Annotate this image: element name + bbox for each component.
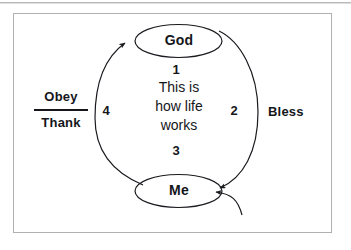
step-number-3: 3 <box>152 143 200 158</box>
bless-label: Bless <box>268 104 304 119</box>
center-caption-line-3: works <box>131 116 227 135</box>
figure-page: God Me 1 2 3 4 This is how life works Ob… <box>0 0 351 250</box>
left-fraction-label: Obey Thank <box>30 88 92 132</box>
god-node-label: God <box>135 32 223 48</box>
center-caption-line-2: how life <box>131 97 227 116</box>
step-number-1: 1 <box>152 62 200 77</box>
step-number-2: 2 <box>224 103 244 118</box>
fraction-divider-line <box>34 109 88 111</box>
thank-label: Thank <box>30 114 92 132</box>
obey-label: Obey <box>30 88 92 106</box>
me-node-label: Me <box>135 182 223 198</box>
center-caption-line-1: This is <box>131 78 227 97</box>
step-number-4: 4 <box>96 103 116 118</box>
center-caption: This is how life works <box>131 78 227 135</box>
